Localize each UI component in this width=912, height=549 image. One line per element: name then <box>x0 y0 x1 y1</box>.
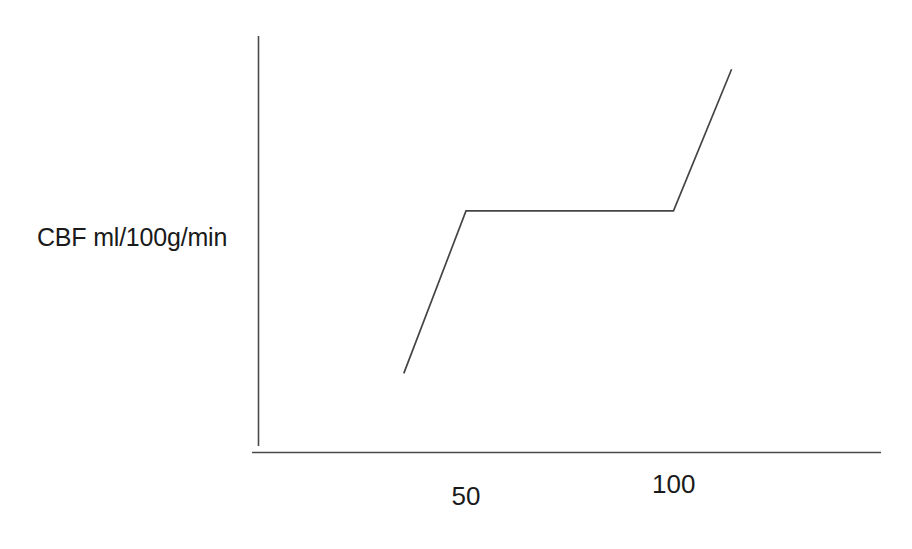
chart-plot-area <box>0 0 912 549</box>
x-axis-tick-label-50: 50 <box>452 481 481 512</box>
y-axis-label: CBF ml/100g/min <box>37 223 227 252</box>
x-axis-tick-label-100: 100 <box>652 469 695 500</box>
chart-figure: CBF ml/100g/min 50 100 <box>0 0 912 549</box>
data-series-autoregulation-curve <box>404 69 732 373</box>
